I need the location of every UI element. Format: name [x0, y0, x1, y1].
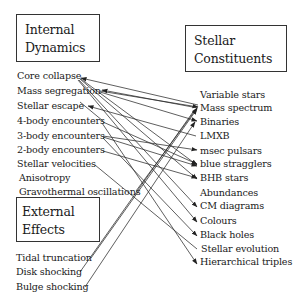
stellar-constituents-box: Stellar Constituents	[185, 25, 287, 72]
internal-item-2-body-encounters: 2-body encounters	[17, 144, 105, 155]
stellar-constituents-title-line1: Stellar	[194, 32, 235, 49]
external-item-bulge-shocking: Bulge shocking	[16, 281, 89, 292]
internal-item-anisotropy: Anisotropy	[19, 172, 70, 183]
internal-dynamics-title-line2: Dynamics	[25, 39, 85, 56]
stellar-item-binaries: Binaries	[200, 116, 239, 127]
stellar-item-stellar-evolution: Stellar evolution	[201, 243, 279, 254]
external-effects-box: External Effects	[16, 197, 100, 242]
internal-item-gravothermal-oscillations: Gravothermal oscillations	[19, 186, 140, 197]
internal-item-mass-segregation: Mass segregation	[17, 85, 101, 96]
stellar-item-colours: Colours	[200, 215, 237, 226]
external-item-disk-shocking: Disk shocking	[16, 266, 82, 277]
stellar-item-hierarchical-triples: Hierarchical triples	[200, 256, 292, 267]
stellar-item-blue-stragglers: blue stragglers	[200, 158, 272, 169]
stellar-item-mass-spectrum: Mass spectrum	[200, 102, 272, 113]
stellar-item-msec-pulsars: msec pulsars	[200, 145, 262, 156]
stellar-constituents-title-line2: Constituents	[194, 50, 272, 67]
stellar-item-lmxb: LMXB	[200, 130, 229, 141]
diagram-canvas: Internal Dynamics Core collapse Mass seg…	[0, 0, 300, 300]
internal-item-core-collapse: Core collapse	[17, 70, 81, 81]
internal-item-3-body-encounters: 3-body encounters	[17, 130, 105, 141]
internal-item-4-body-encounters: 4-body encounters	[17, 115, 105, 126]
external-effects-title-line2: Effects	[22, 221, 65, 238]
external-effects-title-line1: External	[22, 203, 74, 220]
stellar-item-cm-diagrams: CM diagrams	[200, 200, 264, 211]
stellar-item-abundances: Abundances	[200, 187, 258, 198]
internal-dynamics-box: Internal Dynamics	[16, 14, 100, 62]
external-item-tidal-truncation: Tidal truncation	[16, 252, 92, 263]
stellar-item-black-holes: Black holes	[200, 229, 254, 240]
internal-item-stellar-escape: Stellar escape	[17, 100, 84, 111]
stellar-item-bhb-stars: BHB stars	[200, 172, 248, 183]
internal-item-stellar-velocities: Stellar velocities	[17, 158, 96, 169]
internal-dynamics-title-line1: Internal	[25, 21, 74, 38]
stellar-item-variable-stars: Variable stars	[200, 89, 265, 100]
